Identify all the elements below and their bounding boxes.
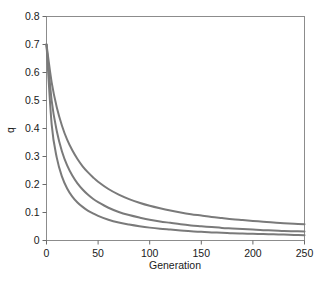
x-tick-label: 200 [244, 247, 262, 259]
x-axis-tick-labels: 050100150200250 [44, 247, 314, 259]
x-tick-label: 50 [92, 247, 104, 259]
y-tick-label: 0.1 [25, 206, 40, 218]
y-axis-tick-labels: 00.10.20.30.40.50.60.70.8 [25, 10, 40, 246]
line-chart: 00.10.20.30.40.50.60.70.8 05010015020025… [0, 0, 327, 286]
y-tick-label: 0.6 [25, 66, 40, 78]
y-tick-label: 0.4 [25, 122, 40, 134]
y-axis-title: q [4, 127, 16, 133]
x-tick-label: 150 [193, 247, 211, 259]
y-tick-label: 0.2 [25, 178, 40, 190]
x-axis-ticks [47, 241, 305, 245]
y-tick-label: 0.5 [25, 94, 40, 106]
x-tick-label: 250 [296, 247, 314, 259]
y-tick-label: 0 [34, 234, 40, 246]
y-tick-label: 0.8 [25, 10, 40, 22]
y-tick-label: 0.7 [25, 38, 40, 50]
x-axis-title: Generation [149, 259, 201, 271]
y-tick-label: 0.3 [25, 150, 40, 162]
plot-frame [47, 17, 305, 241]
chart-figure: 00.10.20.30.40.50.60.70.8 05010015020025… [0, 0, 327, 286]
x-tick-label: 0 [44, 247, 50, 259]
x-tick-label: 100 [141, 247, 159, 259]
